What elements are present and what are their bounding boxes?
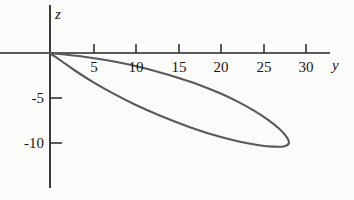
orbit-curve: [50, 53, 289, 147]
z-tick-label-minus-10: -10: [7, 136, 44, 151]
plot-canvas: [0, 0, 354, 200]
y-axis-ticks: [94, 44, 306, 53]
y-tick-label-20: 20: [214, 60, 229, 75]
y-tick-label-25: 25: [257, 60, 272, 75]
y-tick-label-10: 10: [129, 60, 144, 75]
y-axis-label: y: [332, 58, 339, 73]
y-tick-label-15: 15: [172, 60, 187, 75]
z-axis-label: z: [55, 7, 61, 22]
z-axis-ticks: [50, 98, 62, 143]
figure-plot-yz-phase-plane: z y 5 10 15 20 25 30 -5 -10: [0, 0, 354, 200]
y-tick-label-5: 5: [90, 60, 98, 75]
z-tick-label-minus-5: -5: [16, 91, 44, 106]
y-tick-label-30: 30: [299, 60, 314, 75]
